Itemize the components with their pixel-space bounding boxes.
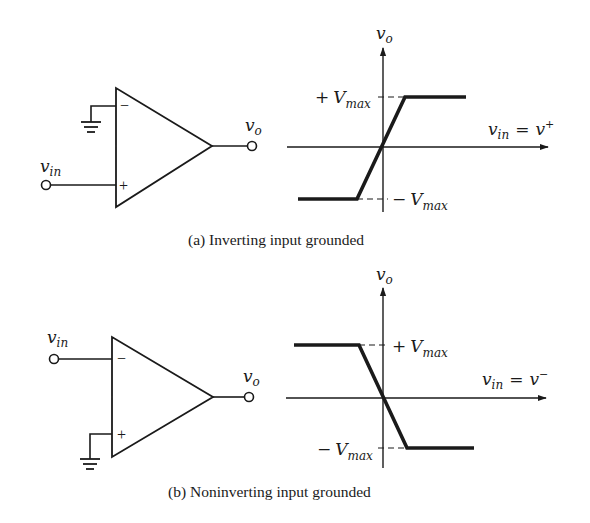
inverting-input-wire [91, 106, 116, 122]
plus-sign: + [117, 426, 126, 443]
x-axis-label: vin=v− [482, 368, 548, 392]
panel-b: − + vin vo vo +Vmax −Vmax vin=v− (b) Non… [47, 264, 548, 501]
op-amp-circuit-a [42, 88, 257, 207]
panel-a: − + vin vo vo +Vmax −Vmax vin=v+ (a) Inv… [40, 23, 554, 249]
input-terminal [42, 181, 51, 190]
input-terminal [50, 355, 59, 364]
output-terminal [245, 393, 254, 402]
caption-a: (a) Inverting input grounded [188, 231, 364, 249]
op-amp-circuit-b [50, 337, 254, 469]
pos-vmax-label: +Vmax [315, 87, 371, 111]
output-terminal [248, 142, 257, 151]
output-label: vo [245, 115, 262, 138]
ground-icon [80, 459, 100, 469]
caption-b: (b) Noninverting input grounded [168, 483, 371, 501]
y-axis-label: vo [376, 23, 393, 46]
input-label: vin [40, 156, 61, 179]
pos-vmax-label: +Vmax [392, 336, 448, 360]
neg-vmax-label: −Vmax [317, 439, 373, 463]
minus-sign: − [117, 350, 126, 367]
output-label: vo [243, 366, 260, 389]
op-amp-triangle [116, 88, 212, 207]
noninverting-input-wire [90, 434, 112, 459]
op-amp-triangle [112, 337, 213, 457]
input-label: vin [47, 327, 68, 350]
y-axis-label: vo [376, 264, 393, 287]
transfer-curve [294, 345, 474, 448]
x-axis-label: vin=v+ [488, 118, 554, 142]
plus-sign: + [119, 177, 128, 194]
op-amp-transfer-figure: − + vin vo vo +Vmax −Vmax vin=v+ (a) Inv… [0, 0, 590, 523]
transfer-curve [298, 97, 466, 199]
minus-sign: − [120, 97, 129, 114]
neg-vmax-label: −Vmax [392, 189, 448, 213]
ground-icon [81, 122, 101, 132]
